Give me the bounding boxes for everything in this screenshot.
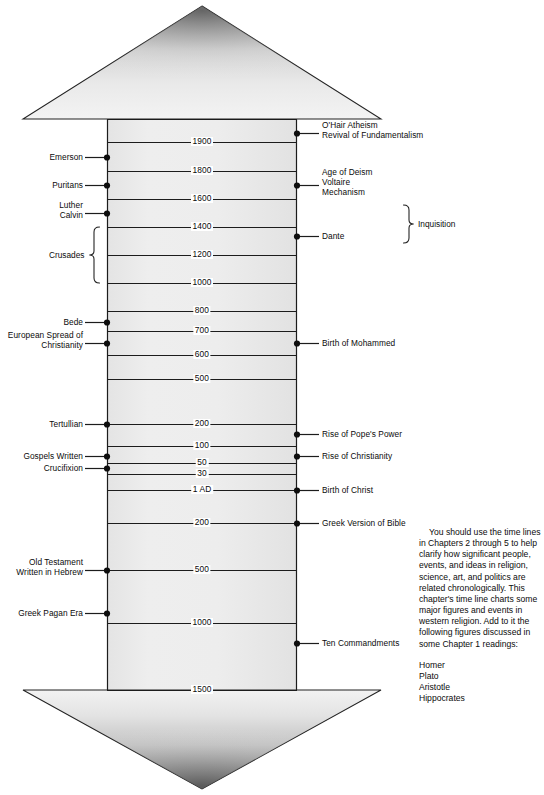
tick-label: 500	[193, 374, 210, 383]
event-label-line: Greek Pagan Era	[18, 608, 83, 618]
event-label-line: Christianity	[8, 340, 83, 350]
tick-label: 100	[193, 441, 210, 450]
event-label-birth-of-mohammed: Birth of Mohammed	[322, 338, 395, 348]
brace-label-crusades: Crusades	[0, 250, 85, 260]
event-marker-dot	[294, 233, 300, 239]
event-marker-dot	[104, 154, 110, 160]
event-label-line: Birth of Mohammed	[322, 338, 395, 348]
tick-label: 1800	[191, 166, 213, 175]
figure-list-item: Homer	[419, 660, 543, 671]
timeline-figure: 1900180016001400120010008007006005002001…	[0, 0, 544, 795]
event-label-bede: Bede	[63, 317, 83, 327]
brace-crusades	[89, 227, 99, 283]
event-marker-dot	[294, 431, 300, 437]
figure-list-item: Aristotle	[419, 682, 543, 693]
event-label-line: European Spread of	[8, 330, 83, 340]
figure-list: HomerPlatoAristotleHippocrates	[419, 660, 543, 705]
event-marker-dot	[294, 130, 300, 136]
brace-inquisition	[404, 205, 414, 243]
arrow-head-top	[23, 6, 381, 119]
tick-label: 50	[196, 458, 209, 467]
event-label-luther-calvin: LutherCalvin	[59, 200, 83, 221]
event-label-emerson: Emerson	[49, 152, 83, 162]
event-label-line: Dante	[322, 231, 344, 241]
event-marker-dot	[294, 340, 300, 346]
figure-list-item: Hippocrates	[419, 693, 543, 704]
tick-label: 1 AD	[191, 485, 213, 494]
tick-label: 700	[193, 326, 210, 335]
brace-label-inquisition: Inquisition	[418, 219, 455, 229]
event-label-crucifixion: Crucifixion	[44, 463, 83, 473]
event-label-line: O'Hair Atheism	[322, 120, 423, 130]
tick-label: 1900	[191, 137, 213, 146]
event-label-age-of-deism: Age of DeismVoltaireMechanism	[322, 167, 372, 198]
event-marker-dot	[104, 567, 110, 573]
event-label-line: Greek Version of Bible	[322, 518, 406, 528]
event-label-gospels-written: Gospels Written	[23, 451, 83, 461]
tick-label: 1000	[191, 618, 213, 627]
event-marker-dot	[104, 421, 110, 427]
event-label-european-spread: European Spread ofChristianity	[8, 330, 83, 351]
event-label-line: Calvin	[59, 210, 83, 220]
event-label-line: Revival of Fundamentalism	[322, 130, 423, 140]
tick-label: 800	[193, 306, 210, 315]
event-label-line: Mechanism	[322, 187, 372, 197]
event-label-greek-version-bible: Greek Version of Bible	[322, 518, 406, 528]
event-marker-dot	[104, 319, 110, 325]
event-label-line: Luther	[59, 200, 83, 210]
event-label-old-testament: Old TestamentWritten in Hebrew	[16, 557, 83, 578]
tick-label: 200	[193, 419, 210, 428]
event-label-line: Age of Deism	[322, 167, 372, 177]
event-marker-dot	[294, 182, 300, 188]
event-marker-dot	[104, 340, 110, 346]
tick-label: 1400	[191, 222, 213, 231]
event-label-line: Written in Hebrew	[16, 567, 83, 577]
event-label-ohair-atheism: O'Hair AtheismRevival of Fundamentalism	[322, 120, 423, 141]
event-marker-dot	[104, 610, 110, 616]
event-label-line: Ten Commandments	[322, 638, 399, 648]
event-label-rise-of-popes-power: Rise of Pope's Power	[322, 429, 402, 439]
event-label-rise-of-christianity: Rise of Christianity	[322, 451, 392, 461]
event-label-line: Puritans	[52, 180, 83, 190]
event-marker-dot	[104, 182, 110, 188]
event-label-tertullian: Tertullian	[49, 419, 83, 429]
event-label-line: Emerson	[49, 152, 83, 162]
event-label-ten-commandments: Ten Commandments	[322, 638, 399, 648]
event-label-dante: Dante	[322, 231, 344, 241]
arrow-head-bottom	[23, 690, 381, 789]
note-paragraph: You should use the time lines in Chapter…	[419, 527, 543, 650]
tick-label: 30	[196, 469, 209, 478]
tick-label: 1600	[191, 194, 213, 203]
event-marker-dot	[294, 520, 300, 526]
event-label-line: Crucifixion	[44, 463, 83, 473]
event-marker-dot	[294, 640, 300, 646]
event-label-puritans: Puritans	[52, 180, 83, 190]
tick-label: 1000	[191, 278, 213, 287]
figure-list-item: Plato	[419, 671, 543, 682]
event-label-line: Gospels Written	[23, 451, 83, 461]
tick-label: 200	[193, 518, 210, 527]
event-label-line: Birth of Christ	[322, 485, 373, 495]
event-marker-dot	[294, 453, 300, 459]
event-label-birth-of-christ: Birth of Christ	[322, 485, 373, 495]
event-label-greek-pagan-era: Greek Pagan Era	[18, 608, 83, 618]
event-marker-dot	[294, 487, 300, 493]
event-label-line: Tertullian	[49, 419, 83, 429]
event-label-line: Voltaire	[322, 177, 372, 187]
event-marker-dot	[104, 453, 110, 459]
instruction-note: You should use the time lines in Chapter…	[419, 527, 543, 704]
event-label-line: Bede	[63, 317, 83, 327]
event-marker-dot	[104, 465, 110, 471]
tick-label: 1500	[191, 685, 213, 694]
tick-label: 1200	[191, 250, 213, 259]
event-marker-dot	[104, 210, 110, 216]
tick-label: 600	[193, 350, 210, 359]
tick-label: 500	[193, 565, 210, 574]
event-label-line: Rise of Pope's Power	[322, 429, 402, 439]
timeline-shaft	[107, 119, 297, 690]
event-label-line: Old Testament	[16, 557, 83, 567]
event-label-line: Rise of Christianity	[322, 451, 392, 461]
